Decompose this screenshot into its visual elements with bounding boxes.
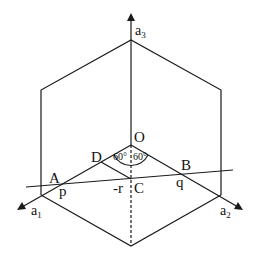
point-C-label: C	[134, 180, 144, 196]
point-D-label: D	[91, 149, 102, 165]
angle-left-label: 60°	[113, 151, 127, 162]
a3-arrow-icon	[127, 13, 135, 21]
intercept-p-label: p	[59, 183, 67, 199]
intercept-r-label: -r	[113, 180, 123, 196]
a3-label: a3	[135, 23, 146, 40]
point-O-label: O	[134, 129, 145, 145]
a2-axis-line	[131, 145, 238, 207]
hexagonal-axes-diagram: a3 a1 a2 O D B A C p q -r 60° 60°	[0, 0, 256, 258]
intercept-q-label: q	[176, 174, 184, 190]
a1-label: a1	[31, 203, 42, 220]
a2-label: a2	[220, 203, 231, 220]
angle-right-label: 60°	[133, 151, 147, 162]
point-B-label: B	[181, 157, 191, 173]
